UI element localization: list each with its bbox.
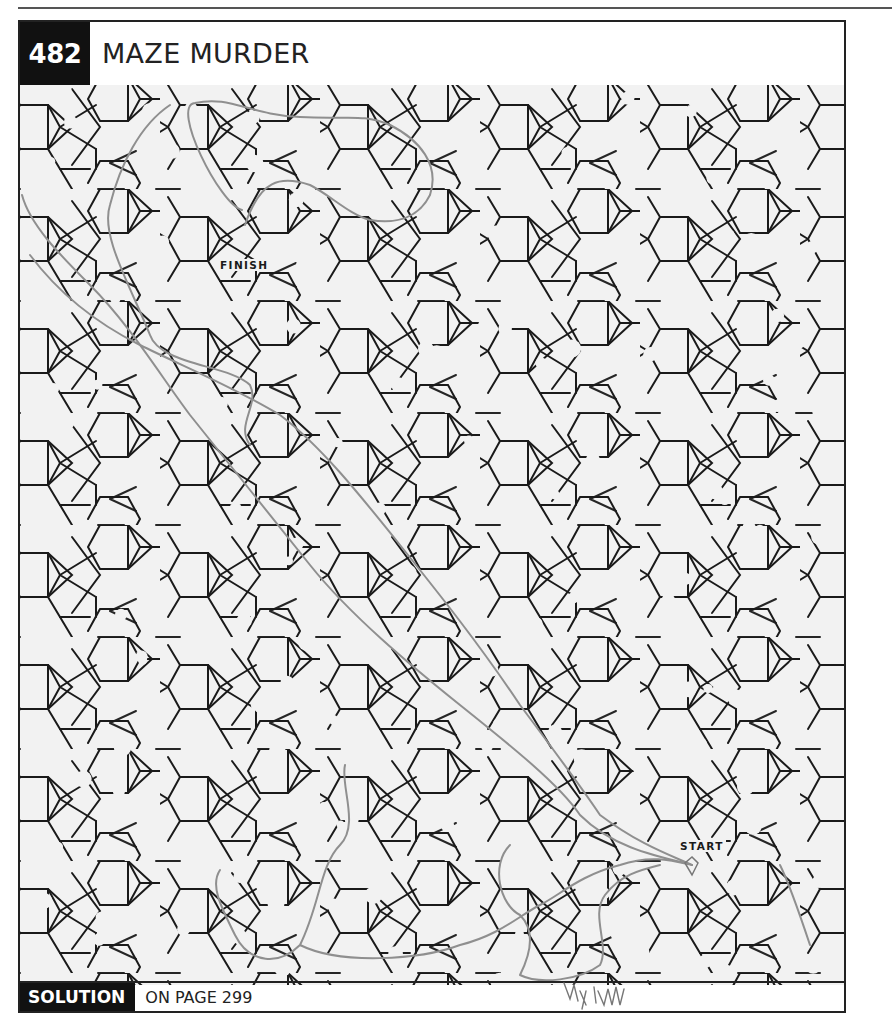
finish-label: FINISH bbox=[218, 259, 271, 271]
puzzle-number: 482 bbox=[20, 22, 90, 85]
top-rule bbox=[18, 7, 892, 9]
solution-label: SOLUTION bbox=[20, 983, 135, 1011]
puzzle-footer: SOLUTION ON PAGE 299 bbox=[20, 981, 844, 1011]
start-label: START bbox=[678, 840, 726, 852]
puzzle-title: MAZE MURDER bbox=[90, 22, 310, 85]
puzzle-header: 482 MAZE MURDER bbox=[20, 22, 844, 87]
solution-page-reference: ON PAGE 299 bbox=[135, 983, 252, 1011]
maze-area[interactable]: FINISH START bbox=[20, 85, 844, 985]
puzzle-frame: 482 MAZE MURDER bbox=[18, 20, 846, 1013]
pencil-signature bbox=[560, 977, 650, 1013]
